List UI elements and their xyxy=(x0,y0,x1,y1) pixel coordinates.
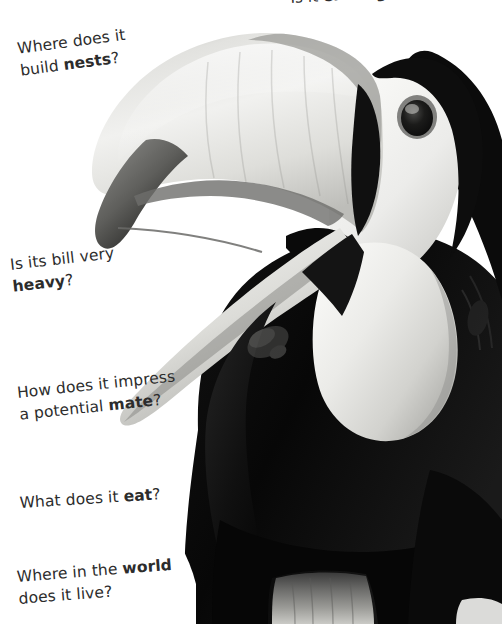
question-heavy-trail: ? xyxy=(64,271,74,290)
question-nests-trail: ? xyxy=(110,49,121,68)
question-mate-trail: ? xyxy=(152,391,162,410)
question-eat-emphasis: eat xyxy=(123,486,153,506)
toucan-tail-feathers xyxy=(272,572,374,624)
question-eat-lead: What does it xyxy=(19,488,124,512)
question-nests-lead: build xyxy=(19,56,65,80)
question-live-emphasis: world xyxy=(122,556,173,578)
question-mate-emphasis: mate xyxy=(108,392,155,415)
toucan-eye-highlight xyxy=(405,104,419,114)
toucan-photo-svg xyxy=(0,0,502,624)
photo-bottom-right-highlight xyxy=(456,598,502,624)
question-heavy-emphasis: heavy xyxy=(12,272,66,296)
toucan-photograph xyxy=(0,0,502,624)
toucan-eye xyxy=(401,100,433,136)
question-endangered-lead: Is it xyxy=(290,0,323,7)
question-eat-trail: ? xyxy=(152,485,161,503)
toucan-question-page: Is it endangered? Where does it build ne… xyxy=(0,0,502,624)
question-nests-emphasis: nests xyxy=(62,50,112,74)
